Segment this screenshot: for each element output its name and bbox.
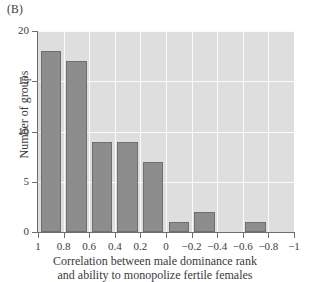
y-tick-5 bbox=[32, 182, 37, 183]
plot-area bbox=[38, 31, 294, 232]
x-tick-0 bbox=[38, 233, 39, 238]
y-axis-line bbox=[37, 31, 38, 233]
bar bbox=[66, 61, 87, 232]
x-tick-7 bbox=[217, 233, 218, 238]
bar bbox=[92, 142, 113, 232]
x-tick-3 bbox=[115, 233, 116, 238]
x-tick-label-10: −1 bbox=[277, 240, 311, 252]
bar bbox=[194, 212, 215, 232]
x-tick-2 bbox=[89, 233, 90, 238]
bar bbox=[245, 222, 266, 232]
bar-series bbox=[38, 31, 294, 232]
x-axis-title-line-1: Correlation between male dominance rank bbox=[20, 254, 290, 268]
panel-label: (B) bbox=[7, 3, 23, 16]
y-tick-label-0: 0 bbox=[3, 226, 29, 237]
x-tick-5 bbox=[166, 233, 167, 238]
y-tick-10 bbox=[32, 132, 37, 133]
y-tick-15 bbox=[32, 81, 37, 82]
x-tick-1 bbox=[64, 233, 65, 238]
bar bbox=[169, 222, 190, 232]
x-axis-title: Correlation between male dominance rank … bbox=[20, 254, 290, 282]
x-tick-10 bbox=[294, 233, 295, 238]
y-tick-0 bbox=[32, 232, 37, 233]
x-axis-title-line-2: and ability to monopolize fertile female… bbox=[20, 268, 290, 282]
x-tick-9 bbox=[268, 233, 269, 238]
y-axis-title: Number of groups bbox=[18, 35, 31, 195]
bar bbox=[143, 162, 164, 232]
y-tick-20 bbox=[32, 31, 37, 32]
bar bbox=[117, 142, 138, 232]
x-tick-8 bbox=[243, 233, 244, 238]
x-tick-6 bbox=[192, 233, 193, 238]
bar bbox=[41, 51, 62, 232]
x-tick-4 bbox=[140, 233, 141, 238]
